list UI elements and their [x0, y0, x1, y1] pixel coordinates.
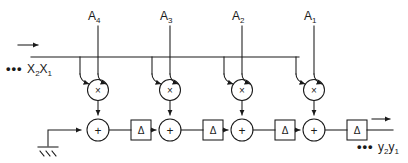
- multiplier-2-glyph: ×: [167, 85, 173, 96]
- diagram-canvas: × × × × + + + + Δ Δ Δ Δ A4 A3 A2 A1 ••• …: [0, 0, 408, 163]
- adder-3-glyph: +: [238, 124, 245, 138]
- delay-2-glyph: Δ: [210, 125, 217, 136]
- delay-4-glyph: Δ: [354, 125, 361, 136]
- output-ellipsis: •••: [357, 139, 374, 154]
- input-symbols: X2X1: [27, 62, 52, 76]
- adder-2-glyph: +: [166, 124, 173, 138]
- coefficient-label-A4: A4: [88, 10, 100, 25]
- signal-flow-graph: × × × × + + + + Δ Δ Δ Δ: [0, 0, 408, 163]
- coefficient-label-A2: A2: [232, 10, 244, 25]
- tap-branch-1-curve: [80, 74, 89, 84]
- tap-branch-2-curve: [152, 74, 161, 84]
- delay-3-glyph: Δ: [282, 125, 289, 136]
- coefficient-label-A3: A3: [160, 10, 172, 25]
- adder-1-glyph: +: [94, 124, 101, 138]
- ground-hatch-1: [40, 151, 44, 156]
- output-symbols: y2y1: [378, 140, 399, 154]
- multiplier-3-glyph: ×: [239, 85, 245, 96]
- input-stream-label: ••• X2X1: [6, 60, 52, 78]
- coefficient-label-A1: A1: [304, 10, 316, 25]
- ground-feed-line: [48, 130, 81, 146]
- ground-hatch-2: [46, 151, 50, 156]
- output-stream-label: ••• y2y1: [357, 138, 399, 156]
- tap-branch-3-curve: [224, 74, 233, 84]
- delay-1-glyph: Δ: [138, 125, 145, 136]
- ground-hatch-3: [52, 151, 56, 156]
- multiplier-1-glyph: ×: [95, 85, 101, 96]
- input-ellipsis: •••: [6, 61, 23, 76]
- adder-4-glyph: +: [310, 124, 317, 138]
- multiplier-4-glyph: ×: [311, 85, 317, 96]
- tap-branch-4-curve: [296, 74, 305, 84]
